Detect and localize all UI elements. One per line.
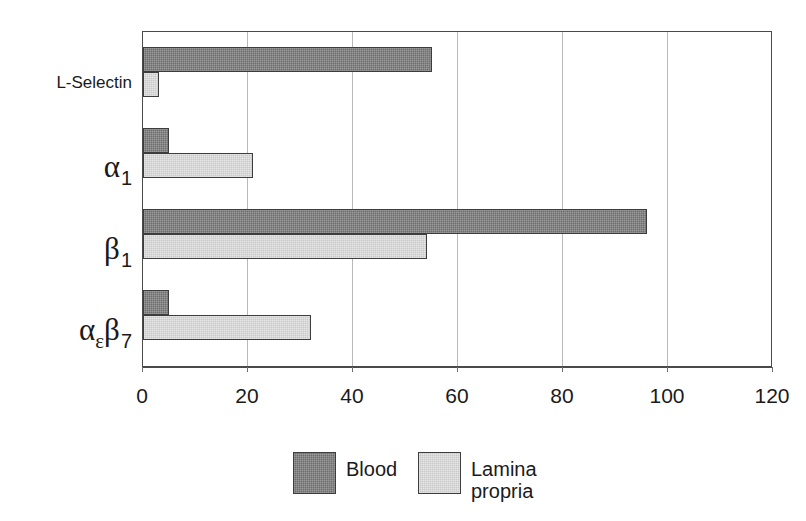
legend-swatch-lamina-propria-icon — [418, 452, 461, 494]
category-label-beta-1-subscript: 1 — [120, 249, 132, 272]
category-label-l-selectin: L-Selectin — [0, 73, 132, 93]
legend-label-blood: Blood — [346, 452, 397, 481]
x-axis-tick-label-0: 0 — [136, 384, 148, 408]
bar-LSelectin-lamina-propria — [143, 72, 159, 97]
x-axis-tick-label-100: 100 — [649, 384, 684, 408]
x-axis-tick-80 — [562, 367, 563, 372]
category-axis-labels: L-Selectin α1 β1 αεβ7 — [0, 31, 136, 367]
x-axis-tick-label-40: 40 — [340, 384, 363, 408]
x-axis-tick-60 — [457, 367, 458, 372]
legend-swatch-blood-icon — [293, 452, 336, 494]
bar-LSelectin-blood — [143, 47, 432, 72]
legend-entry-blood: Blood — [293, 452, 397, 494]
x-axis-tick-0 — [142, 367, 143, 372]
x-axis-tick-40 — [352, 367, 353, 372]
x-axis-tick-20 — [247, 367, 248, 372]
legend-label-lamina-propria: Lamina propria — [471, 452, 537, 502]
bar--lamina-propria — [143, 234, 427, 259]
category-label-l-selectin-text: L-Selectin — [56, 73, 132, 92]
category-label-alpha-e-beta-7-alpha: α — [79, 312, 95, 347]
bar--blood — [143, 209, 647, 234]
x-axis-tick-label-20: 20 — [235, 384, 258, 408]
bar-chart-figure: L-Selectin α1 β1 αεβ7 020406080100120 B — [0, 0, 806, 521]
category-label-beta-1: β1 — [0, 231, 132, 272]
x-axis-tick-120 — [772, 367, 773, 372]
plot-area — [142, 31, 772, 367]
category-label-alpha-e-beta-7-beta: β — [104, 312, 120, 347]
bar--lamina-propria — [143, 315, 311, 340]
x-axis-tick-label-80: 80 — [550, 384, 573, 408]
bar--blood — [143, 290, 169, 315]
bar--lamina-propria — [143, 153, 253, 178]
legend: Blood Lamina propria — [290, 452, 590, 514]
x-axis-tick-100 — [667, 367, 668, 372]
bar--blood — [143, 128, 169, 153]
category-label-alpha-e-beta-7: αεβ7 — [0, 312, 132, 354]
x-axis-tick-label-60: 60 — [445, 384, 468, 408]
category-label-alpha-1-subscript: 1 — [120, 167, 132, 190]
category-label-alpha-1-base: α — [104, 149, 120, 184]
category-label-alpha-e-beta-7-seven: 7 — [120, 330, 132, 353]
x-axis-tick-label-120: 120 — [754, 384, 789, 408]
bar-group-container — [143, 32, 771, 366]
category-label-alpha-e-beta-7-epsilon: ε — [95, 329, 104, 354]
legend-entry-lamina-propria: Lamina propria — [418, 452, 537, 502]
category-label-alpha-1: α1 — [0, 149, 132, 190]
category-label-beta-1-base: β — [104, 231, 120, 266]
